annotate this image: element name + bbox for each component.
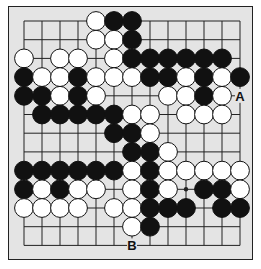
white-stone (33, 68, 52, 87)
black-stone (105, 161, 124, 180)
black-stone (87, 105, 106, 124)
black-stone (15, 86, 34, 105)
white-stone (87, 30, 106, 49)
black-stone (123, 12, 142, 31)
black-stone (69, 68, 88, 87)
white-stone (105, 199, 124, 218)
star-point (184, 187, 188, 191)
white-stone (123, 199, 142, 218)
white-stone (51, 86, 70, 105)
black-stone (69, 86, 88, 105)
black-stone (123, 143, 142, 162)
black-stone (15, 161, 34, 180)
black-stone (141, 49, 160, 68)
white-stone (123, 105, 142, 124)
black-stone (123, 49, 142, 68)
white-stone (141, 105, 160, 124)
black-stone (105, 124, 124, 143)
white-stone (105, 49, 124, 68)
white-stone (87, 180, 106, 199)
star-points (184, 187, 188, 191)
black-stone (141, 217, 160, 236)
white-stone (159, 86, 178, 105)
white-stone (231, 180, 250, 199)
white-stone (87, 86, 106, 105)
white-stone (33, 180, 52, 199)
white-stone (231, 161, 250, 180)
white-stone (159, 143, 178, 162)
white-stone (123, 68, 142, 87)
white-stone (195, 105, 214, 124)
white-stone (159, 161, 178, 180)
black-stone (231, 199, 250, 218)
point-label-a: A (235, 89, 245, 104)
white-stone (213, 68, 232, 87)
black-stone (213, 49, 232, 68)
go-board-diagram: AB (0, 0, 261, 269)
white-stone (123, 217, 142, 236)
white-stone (177, 105, 196, 124)
white-stone (213, 86, 232, 105)
black-stone (51, 161, 70, 180)
black-stone (123, 30, 142, 49)
white-stone (69, 49, 88, 68)
white-stone (87, 12, 106, 31)
black-stone (141, 161, 160, 180)
white-stone (213, 105, 232, 124)
white-stone (15, 199, 34, 218)
black-stone (87, 161, 106, 180)
black-stone (123, 124, 142, 143)
black-stone (15, 68, 34, 87)
white-stone (51, 199, 70, 218)
black-stone (141, 180, 160, 199)
black-stone (141, 143, 160, 162)
black-stone (195, 180, 214, 199)
white-stone (177, 161, 196, 180)
black-stone (141, 199, 160, 218)
white-stone (177, 86, 196, 105)
stones (15, 12, 250, 237)
white-stone (195, 161, 214, 180)
black-stone (51, 105, 70, 124)
white-stone (213, 161, 232, 180)
black-stone (69, 161, 88, 180)
black-stone (33, 161, 52, 180)
black-stone (213, 180, 232, 199)
black-stone (159, 68, 178, 87)
white-stone (69, 180, 88, 199)
black-stone (231, 68, 250, 87)
black-stone (105, 12, 124, 31)
white-stone (105, 30, 124, 49)
point-label-b: B (127, 238, 136, 253)
black-stone (141, 68, 160, 87)
white-stone (123, 180, 142, 199)
black-stone (195, 49, 214, 68)
white-stone (141, 124, 160, 143)
white-stone (177, 68, 196, 87)
white-stone (33, 199, 52, 218)
white-stone (51, 68, 70, 87)
white-stone (105, 68, 124, 87)
black-stone (177, 199, 196, 218)
white-stone (69, 199, 88, 218)
black-stone (105, 105, 124, 124)
white-stone (159, 180, 178, 199)
black-stone (159, 199, 178, 218)
white-stone (123, 161, 142, 180)
black-stone (159, 49, 178, 68)
black-stone (213, 199, 232, 218)
white-stone (15, 49, 34, 68)
black-stone (15, 180, 34, 199)
black-stone (177, 49, 196, 68)
black-stone (33, 86, 52, 105)
black-stone (51, 180, 70, 199)
white-stone (51, 49, 70, 68)
black-stone (195, 86, 214, 105)
black-stone (195, 68, 214, 87)
black-stone (33, 105, 52, 124)
white-stone (87, 68, 106, 87)
black-stone (69, 105, 88, 124)
